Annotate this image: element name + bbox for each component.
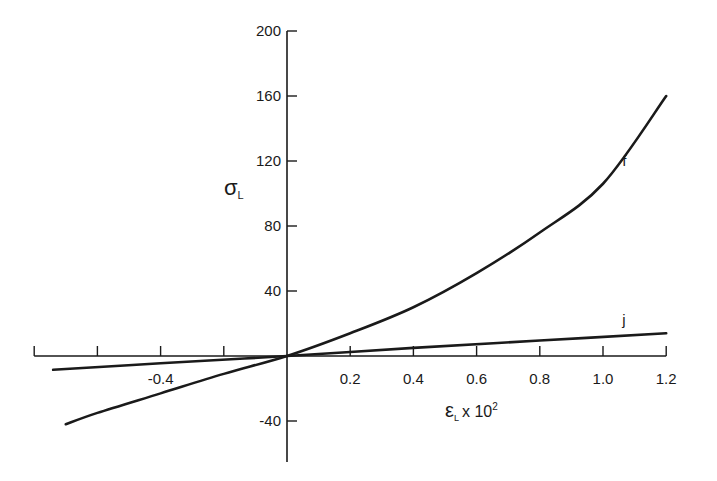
x-axis-label: εLx 102 [445,399,498,423]
axis-ticks [34,31,666,421]
x-axis-subscript: L [454,413,459,423]
x-tick-label: 0.8 [529,370,550,387]
y-tick-label: 80 [264,217,281,234]
curve-j [53,333,666,370]
x-tick-label: 0.6 [466,370,487,387]
x-tick-label: 1.2 [656,370,677,387]
x-axis-multiplier: x 10 [462,403,492,420]
y-tick-label: 200 [256,22,281,39]
y-axis-subscript: L [238,189,244,201]
x-tick-label: 0.2 [340,370,361,387]
x-tick-label: 0.4 [403,370,424,387]
x-axis-symbol: ε [445,399,454,421]
y-tick-label: 120 [256,152,281,169]
y-axis-symbol: σ [224,175,238,200]
series-label-j: j [621,311,625,328]
x-tick-label: -0.4 [148,370,174,387]
x-axis-exponent: 2 [492,401,498,412]
y-tick-label: 160 [256,87,281,104]
stress-strain-chart: -0.40.20.40.60.81.01.22001601208040-40 f… [0,0,717,481]
axes [34,31,666,462]
y-tick-label: -40 [259,412,281,429]
y-tick-label: 40 [264,282,281,299]
y-axis-label: σL [224,175,244,201]
tick-labels: -0.40.20.40.60.81.01.22001601208040-40 [148,22,677,429]
x-tick-label: 1.0 [593,370,614,387]
